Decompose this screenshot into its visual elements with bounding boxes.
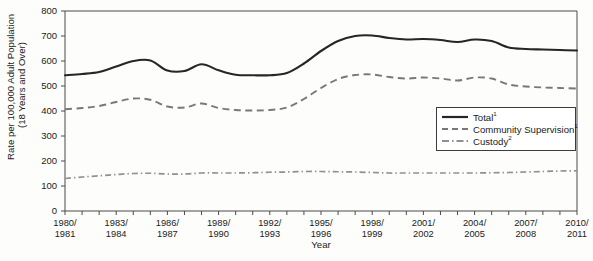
x-tick-label-bottom: 2008 bbox=[515, 229, 536, 239]
x-tick-label-top: 1986/ bbox=[156, 218, 180, 228]
x-tick-label-top: 1998/ bbox=[361, 218, 385, 228]
y-axis-ticks: 0100200300400500600700800 bbox=[41, 5, 65, 216]
y-tick-label: 800 bbox=[41, 5, 57, 16]
x-tick-label-top: 1983/ bbox=[105, 218, 129, 228]
line-chart: Rate per 100,000 Adult Population (18 Ye… bbox=[0, 0, 593, 261]
chart-legend: Total1 Community Supervision1 Custody2 bbox=[437, 108, 579, 151]
x-tick-label-bottom: 1999 bbox=[362, 229, 383, 239]
series-line-community-supervision bbox=[65, 74, 577, 110]
x-tick-label-top: 1995/ bbox=[309, 218, 333, 228]
y-tick-label: 200 bbox=[41, 155, 57, 166]
x-tick-label-bottom: 2002 bbox=[413, 229, 434, 239]
y-tick-label: 600 bbox=[41, 55, 57, 66]
x-tick-label-top: 2004/ bbox=[463, 218, 487, 228]
x-tick-label-bottom: 1996 bbox=[311, 229, 332, 239]
y-axis-title: Rate per 100,000 Adult Population (18 Ye… bbox=[5, 14, 27, 160]
y-tick-label: 100 bbox=[41, 180, 57, 191]
x-tick-label-top: 2001/ bbox=[412, 218, 436, 228]
series-line-custody bbox=[65, 171, 577, 179]
x-tick-label-bottom: 2005 bbox=[464, 229, 485, 239]
x-tick-label-top: 2007/ bbox=[514, 218, 538, 228]
y-axis-title-line1: Rate per 100,000 Adult Population bbox=[5, 14, 16, 160]
x-tick-label-bottom: 1990 bbox=[208, 229, 229, 239]
legend-label-custody: Custody2 bbox=[473, 134, 512, 146]
x-tick-label-bottom: 1987 bbox=[157, 229, 178, 239]
y-tick-label: 400 bbox=[41, 105, 57, 116]
x-tick-label-bottom: 2011 bbox=[567, 229, 587, 239]
x-tick-label-bottom: 1981 bbox=[55, 229, 76, 239]
x-axis-ticks: 1980/19811983/19841986/19871989/19901992… bbox=[53, 211, 589, 239]
x-tick-label-top: 1980/ bbox=[53, 218, 77, 228]
y-axis-title-line2: (18 Years and Over) bbox=[16, 42, 27, 128]
y-tick-label: 500 bbox=[41, 80, 57, 91]
chart-figure: Rate per 100,000 Adult Population (18 Ye… bbox=[0, 0, 593, 261]
y-tick-label: 0 bbox=[52, 205, 57, 216]
x-tick-label-bottom: 1984 bbox=[106, 229, 127, 239]
y-tick-label: 700 bbox=[41, 30, 57, 41]
series-line-total bbox=[65, 35, 577, 75]
x-axis-title: Year bbox=[311, 239, 331, 250]
x-tick-label-top: 1992/ bbox=[258, 218, 282, 228]
x-tick-label-top: 2010/ bbox=[565, 218, 589, 228]
x-tick-label-top: 1989/ bbox=[207, 218, 231, 228]
plot-series bbox=[65, 35, 577, 178]
y-tick-label: 300 bbox=[41, 130, 57, 141]
x-tick-label-bottom: 1993 bbox=[259, 229, 280, 239]
legend-label-community-supervision: Community Supervision1 bbox=[473, 122, 578, 134]
